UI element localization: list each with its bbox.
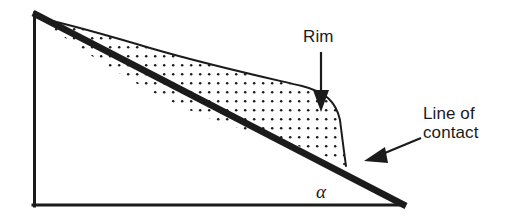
line-of-contact-label-line1: Line of	[423, 104, 475, 123]
line-of-contact-label-line2: contact	[423, 123, 479, 142]
figure-canvas: Rim Line ofcontact α	[0, 0, 515, 223]
line-of-contact-label: Line ofcontact	[423, 104, 479, 142]
line-of-contact-arrow-shaft	[380, 138, 421, 155]
inclined-surface-line	[33, 13, 406, 206]
angle-alpha-label: α	[316, 181, 326, 202]
rim-label: Rim	[303, 27, 334, 46]
line-of-contact-arrow-head	[364, 147, 388, 163]
